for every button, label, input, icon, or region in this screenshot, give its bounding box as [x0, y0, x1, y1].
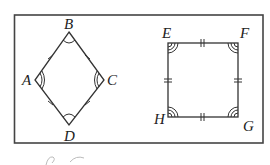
figure-frame	[15, 15, 264, 143]
vertex-label-d: D	[63, 128, 75, 144]
angle-e-arcs	[168, 43, 178, 53]
angle-a-arc-1	[40, 73, 42, 87]
square-outline	[168, 43, 238, 117]
rhombus-abcd: B A C D	[21, 16, 118, 144]
scribble-mark-2	[70, 157, 84, 162]
rhombus-outline	[35, 32, 104, 125]
angle-c-arc-1	[97, 73, 99, 87]
vertex-label-b: B	[64, 16, 73, 32]
vertex-label-h: H	[153, 111, 166, 127]
angle-h-arcs	[168, 107, 178, 117]
geometry-figure: B A C D	[0, 0, 270, 165]
square-efgh: E F H G	[153, 25, 254, 134]
angle-b-arc	[63, 40, 75, 43]
scribble-mark	[46, 157, 54, 165]
angle-d-arc	[63, 114, 75, 117]
vertex-label-f: F	[239, 25, 250, 41]
vertex-label-a: A	[21, 72, 32, 88]
angle-f-arcs	[228, 43, 238, 53]
vertex-label-e: E	[161, 25, 171, 41]
vertex-label-g: G	[243, 118, 254, 134]
angle-g-arcs	[228, 107, 238, 117]
vertex-label-c: C	[107, 72, 118, 88]
